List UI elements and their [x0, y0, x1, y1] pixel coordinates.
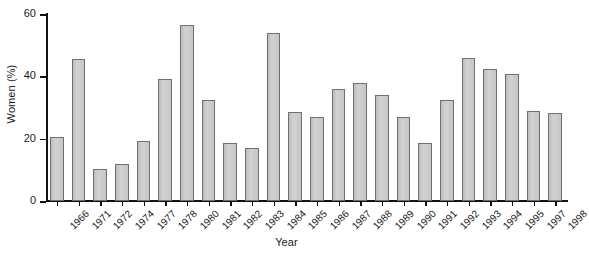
x-tick-mark: [469, 201, 470, 206]
bar: [158, 79, 171, 201]
x-tick-mark: [57, 201, 58, 206]
x-tick-mark: [209, 201, 210, 206]
bar: [223, 143, 236, 201]
x-tick-label: 1985: [306, 208, 330, 232]
x-tick-mark: [100, 201, 101, 206]
y-tick-label: 0: [30, 194, 36, 206]
x-tick-mark: [230, 201, 231, 206]
bar: [353, 83, 366, 201]
x-tick-label: 1980: [197, 208, 221, 232]
bar: [418, 143, 431, 201]
bar: [267, 33, 280, 201]
x-tick-label: 1993: [479, 208, 503, 232]
x-tick-label: 1997: [544, 208, 568, 232]
x-tick-mark: [512, 201, 513, 206]
x-tick-label: 1991: [436, 208, 460, 232]
x-tick-label: 1998: [566, 208, 589, 232]
bar: [483, 69, 496, 201]
x-tick-mark: [252, 201, 253, 206]
x-tick-mark: [490, 201, 491, 206]
x-tick-mark: [382, 201, 383, 206]
bar: [440, 100, 453, 201]
x-tick-label: 1972: [111, 208, 135, 232]
x-tick-label: 1982: [241, 208, 265, 232]
x-tick-label: 1966: [67, 208, 91, 232]
x-tick-label: 1994: [501, 208, 525, 232]
plot-area: [46, 14, 566, 201]
x-tick-mark: [295, 201, 296, 206]
x-tick-label: 1989: [392, 208, 416, 232]
x-tick-mark: [404, 201, 405, 206]
x-tick-mark: [79, 201, 80, 206]
x-tick-label: 1983: [262, 208, 286, 232]
bar: [72, 59, 85, 201]
bar: [397, 117, 410, 201]
x-tick-mark: [187, 201, 188, 206]
x-tick-label: 1978: [176, 208, 200, 232]
x-tick-label: 1990: [414, 208, 438, 232]
bar: [115, 164, 128, 201]
x-tick-mark: [122, 201, 123, 206]
x-tick-mark: [317, 201, 318, 206]
bar: [505, 74, 518, 201]
bar: [548, 113, 561, 201]
y-axis-title: Women (%): [5, 49, 17, 139]
bar: [462, 58, 475, 201]
bar: [288, 112, 301, 201]
x-tick-mark: [144, 201, 145, 206]
bar: [137, 141, 150, 201]
bar: [310, 117, 323, 201]
x-tick-label: 1995: [522, 208, 546, 232]
bar: [50, 137, 63, 202]
bar: [527, 111, 540, 201]
bar: [375, 95, 388, 201]
x-tick-label: 1984: [284, 208, 308, 232]
x-tick-label: 1977: [154, 208, 178, 232]
x-tick-label: 1971: [89, 208, 113, 232]
x-tick-label: 1992: [457, 208, 481, 232]
y-tick-label: 40: [24, 69, 36, 81]
x-tick-mark: [425, 201, 426, 206]
bar: [180, 25, 193, 201]
y-tick-label: 20: [24, 132, 36, 144]
x-tick-label: 1974: [132, 208, 156, 232]
x-tick-label: 1987: [349, 208, 373, 232]
x-tick-mark: [534, 201, 535, 206]
x-tick-label: 1988: [371, 208, 395, 232]
x-tick-mark: [555, 201, 556, 206]
y-tick-mark: [40, 201, 46, 203]
x-tick-label: 1986: [327, 208, 351, 232]
x-tick-mark: [165, 201, 166, 206]
bar: [202, 100, 215, 201]
bar: [332, 89, 345, 201]
x-tick-mark: [339, 201, 340, 206]
y-tick-label: 60: [24, 7, 36, 19]
bar: [93, 169, 106, 201]
x-axis-title: Year: [0, 236, 573, 248]
x-tick-mark: [447, 201, 448, 206]
bar: [245, 148, 258, 201]
x-tick-mark: [274, 201, 275, 206]
x-tick-label: 1981: [219, 208, 243, 232]
x-tick-mark: [360, 201, 361, 206]
